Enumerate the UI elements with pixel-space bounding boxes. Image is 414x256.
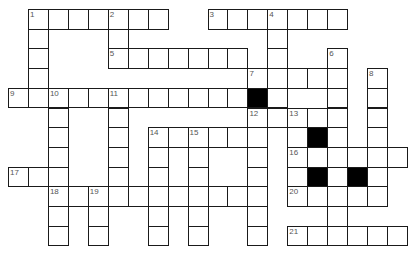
crossword-cell[interactable] <box>227 88 248 109</box>
crossword-cell[interactable] <box>108 29 129 50</box>
crossword-cell[interactable] <box>108 167 129 188</box>
crossword-cell[interactable] <box>347 226 368 247</box>
crossword-cell[interactable] <box>48 167 69 188</box>
crossword-cell[interactable] <box>327 88 348 109</box>
crossword-cell[interactable] <box>287 167 308 188</box>
crossword-cell[interactable] <box>387 147 408 168</box>
crossword-cell[interactable] <box>128 9 149 30</box>
crossword-cell[interactable] <box>68 9 89 30</box>
crossword-cell[interactable] <box>168 48 189 69</box>
crossword-cell[interactable]: 21 <box>287 226 308 247</box>
crossword-cell[interactable]: 4 <box>267 9 288 30</box>
crossword-cell[interactable] <box>327 206 348 227</box>
crossword-cell[interactable] <box>188 147 209 168</box>
crossword-cell[interactable] <box>367 127 388 148</box>
crossword-cell[interactable] <box>307 186 328 207</box>
crossword-cell[interactable] <box>48 127 69 148</box>
crossword-cell[interactable] <box>168 127 189 148</box>
crossword-cell[interactable] <box>108 186 129 207</box>
crossword-cell[interactable] <box>108 108 129 129</box>
crossword-cell[interactable] <box>227 48 248 69</box>
crossword-cell[interactable]: 18 <box>48 186 69 207</box>
crossword-cell[interactable] <box>128 88 149 109</box>
crossword-cell[interactable] <box>267 68 288 89</box>
crossword-cell[interactable] <box>48 206 69 227</box>
crossword-cell[interactable] <box>327 127 348 148</box>
crossword-cell[interactable]: 12 <box>247 108 268 129</box>
crossword-cell[interactable] <box>128 186 149 207</box>
crossword-cell[interactable] <box>148 88 169 109</box>
crossword-cell[interactable] <box>48 108 69 129</box>
crossword-cell[interactable] <box>247 167 268 188</box>
crossword-cell[interactable]: 1 <box>28 9 49 30</box>
crossword-cell[interactable] <box>247 147 268 168</box>
crossword-cell[interactable]: 15 <box>188 127 209 148</box>
crossword-cell[interactable] <box>327 226 348 247</box>
crossword-cell[interactable] <box>367 88 388 109</box>
crossword-cell[interactable] <box>227 127 248 148</box>
crossword-cell[interactable] <box>287 9 308 30</box>
crossword-cell[interactable] <box>247 127 268 148</box>
crossword-cell[interactable] <box>367 167 388 188</box>
crossword-cell[interactable] <box>227 9 248 30</box>
crossword-cell[interactable] <box>208 88 229 109</box>
crossword-cell[interactable] <box>267 108 288 129</box>
crossword-cell[interactable] <box>148 206 169 227</box>
crossword-cell[interactable]: 9 <box>8 88 29 109</box>
crossword-cell[interactable] <box>148 48 169 69</box>
crossword-cell[interactable] <box>88 226 109 247</box>
crossword-cell[interactable]: 6 <box>327 48 348 69</box>
crossword-cell[interactable] <box>188 88 209 109</box>
crossword-cell[interactable] <box>267 29 288 50</box>
crossword-cell[interactable] <box>367 108 388 129</box>
crossword-cell[interactable] <box>208 48 229 69</box>
crossword-cell[interactable] <box>148 9 169 30</box>
crossword-cell[interactable] <box>208 127 229 148</box>
crossword-cell[interactable] <box>327 9 348 30</box>
crossword-cell[interactable] <box>48 9 69 30</box>
crossword-cell[interactable] <box>387 226 408 247</box>
crossword-cell[interactable] <box>307 108 328 129</box>
crossword-cell[interactable] <box>28 48 49 69</box>
crossword-cell[interactable]: 2 <box>108 9 129 30</box>
crossword-cell[interactable]: 16 <box>287 147 308 168</box>
crossword-cell[interactable] <box>327 167 348 188</box>
crossword-cell[interactable] <box>188 48 209 69</box>
crossword-cell[interactable] <box>247 226 268 247</box>
crossword-cell[interactable] <box>28 88 49 109</box>
crossword-cell[interactable] <box>188 226 209 247</box>
crossword-cell[interactable] <box>307 147 328 168</box>
crossword-cell[interactable]: 3 <box>208 9 229 30</box>
crossword-cell[interactable] <box>28 68 49 89</box>
crossword-cell[interactable]: 5 <box>108 48 129 69</box>
crossword-cell[interactable] <box>287 68 308 89</box>
crossword-cell[interactable] <box>367 226 388 247</box>
crossword-cell[interactable] <box>307 9 328 30</box>
crossword-cell[interactable] <box>108 127 129 148</box>
crossword-cell[interactable] <box>247 186 268 207</box>
crossword-cell[interactable] <box>327 147 348 168</box>
crossword-cell[interactable]: 20 <box>287 186 308 207</box>
crossword-cell[interactable]: 19 <box>88 186 109 207</box>
crossword-cell[interactable] <box>188 167 209 188</box>
crossword-cell[interactable] <box>48 147 69 168</box>
crossword-cell[interactable] <box>68 88 89 109</box>
crossword-cell[interactable] <box>247 9 268 30</box>
crossword-cell[interactable] <box>28 29 49 50</box>
crossword-cell[interactable] <box>148 186 169 207</box>
crossword-cell[interactable] <box>367 147 388 168</box>
crossword-cell[interactable] <box>68 186 89 207</box>
crossword-cell[interactable] <box>247 206 268 227</box>
crossword-cell[interactable] <box>148 147 169 168</box>
crossword-cell[interactable] <box>227 186 248 207</box>
crossword-cell[interactable] <box>88 9 109 30</box>
crossword-cell[interactable]: 11 <box>108 88 129 109</box>
crossword-cell[interactable]: 14 <box>148 127 169 148</box>
crossword-cell[interactable] <box>208 186 229 207</box>
crossword-cell[interactable] <box>327 108 348 129</box>
crossword-cell[interactable]: 7 <box>247 68 268 89</box>
crossword-cell[interactable]: 17 <box>8 167 29 188</box>
crossword-cell[interactable] <box>307 226 328 247</box>
crossword-cell[interactable] <box>168 186 189 207</box>
crossword-cell[interactable] <box>128 48 149 69</box>
